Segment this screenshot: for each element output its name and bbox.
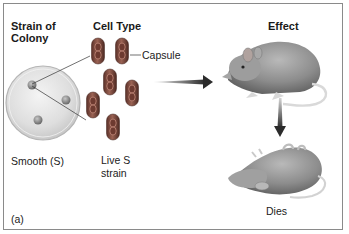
panel-label: (a) xyxy=(11,213,24,225)
strain-header-line1: Strain of xyxy=(11,20,56,32)
effect-header: Effect xyxy=(268,20,299,32)
strain-header-line2: Colony xyxy=(11,32,48,44)
arrow-right-icon xyxy=(153,75,213,89)
diagram-graphics xyxy=(0,0,349,234)
cell-type-header: Cell Type xyxy=(93,20,141,32)
strain-name-label: Smooth (S) xyxy=(11,155,64,167)
live-mouse-image xyxy=(222,42,326,106)
capsule-label: Capsule xyxy=(142,49,181,61)
cell-label-line1: Live S xyxy=(101,154,130,166)
cell-label-line2: strain xyxy=(101,167,127,179)
petri-dish xyxy=(6,66,80,140)
outcome-label: Dies xyxy=(266,205,287,217)
dead-mouse-image xyxy=(228,145,325,198)
bacteria-cluster xyxy=(76,38,139,140)
